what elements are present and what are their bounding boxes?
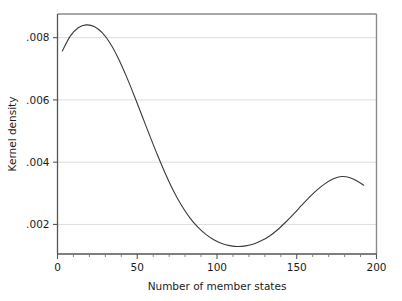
y-axis-tick-label: .004: [26, 156, 50, 168]
x-axis-tick-label: 0: [54, 261, 61, 273]
x-axis-tick-label: 100: [207, 261, 227, 273]
x-axis-tick-label: 150: [287, 261, 307, 273]
x-axis-tick-label: 200: [366, 261, 386, 273]
y-axis-tick-label: .006: [26, 94, 50, 106]
x-axis-tick-label: 50: [131, 261, 144, 273]
kernel-density-chart: .002.004.006.008 050100150200 Number of …: [0, 0, 402, 301]
y-axis-tick-label: .002: [26, 218, 49, 230]
x-axis-title: Number of member states: [148, 280, 287, 292]
chart-canvas: .002.004.006.008 050100150200 Number of …: [0, 0, 402, 301]
y-axis-tick-label: .008: [26, 31, 49, 43]
y-axis-title: Kernel density: [6, 97, 18, 172]
